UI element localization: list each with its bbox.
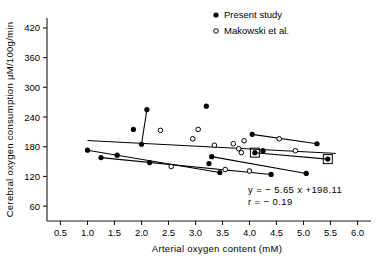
x-tick-label: 4.0 xyxy=(243,227,256,238)
data-point-makowski xyxy=(223,167,228,172)
x-axis-title: Arterial oxygen content (mM) xyxy=(152,243,282,254)
x-tick-label: 0.5 xyxy=(54,227,67,238)
scatter-plot: 601201802403003604200.51.01.52.02.53.03.… xyxy=(0,0,384,258)
data-point-makowski xyxy=(293,148,298,153)
data-point-present-study xyxy=(252,150,257,155)
data-point-makowski xyxy=(239,150,244,155)
y-tick-label: 180 xyxy=(24,141,40,152)
data-point-present-study xyxy=(325,157,330,162)
paired-connection-line xyxy=(142,110,147,145)
x-tick-label: 3.0 xyxy=(189,227,202,238)
x-tick-label: 3.5 xyxy=(216,227,229,238)
data-point-makowski xyxy=(247,169,252,174)
correlation-coefficient: r = − 0.19 xyxy=(248,196,293,207)
data-point-makowski xyxy=(158,128,163,133)
y-tick-label: 240 xyxy=(24,112,40,123)
x-tick-label: 6.0 xyxy=(351,227,364,238)
data-point-present-study xyxy=(131,127,136,132)
data-point-makowski xyxy=(277,137,282,142)
data-point-makowski xyxy=(191,137,196,142)
data-point-present-study xyxy=(85,148,90,153)
data-points-layer xyxy=(85,104,336,178)
data-point-present-study xyxy=(260,148,265,153)
y-tick-label: 420 xyxy=(24,22,40,33)
chart-container: 601201802403003604200.51.01.52.02.53.03.… xyxy=(0,0,384,258)
x-tick-label: 5.0 xyxy=(297,227,310,238)
legend-label-text: Present study xyxy=(224,9,282,20)
paired-connection-line xyxy=(255,153,328,159)
paired-connection-line xyxy=(88,150,220,172)
y-tick-label: 120 xyxy=(24,171,40,182)
x-tick-label: 5.5 xyxy=(324,227,337,238)
data-point-present-study xyxy=(98,155,103,160)
data-point-present-study xyxy=(204,104,209,109)
data-point-present-study xyxy=(139,142,144,147)
regression-equation: y = − 5.65 x +198.11 xyxy=(248,184,342,195)
x-tick-label: 2.0 xyxy=(135,227,148,238)
data-point-makowski xyxy=(212,143,217,148)
y-tick-label: 300 xyxy=(24,82,40,93)
data-point-present-study xyxy=(269,172,274,177)
data-point-present-study xyxy=(206,161,211,166)
data-point-present-study xyxy=(209,154,214,159)
data-point-makowski xyxy=(169,164,174,169)
legend-marker-filled-circle xyxy=(213,12,218,17)
data-point-makowski xyxy=(231,141,236,146)
data-point-makowski xyxy=(196,127,201,132)
paired-connection-line xyxy=(101,158,271,175)
x-tick-label: 4.5 xyxy=(270,227,283,238)
regression-line xyxy=(88,141,336,154)
x-tick-label: 2.5 xyxy=(162,227,175,238)
data-point-present-study xyxy=(304,171,309,176)
data-point-present-study xyxy=(115,153,120,158)
legend: Present studyMakowski et al. xyxy=(213,9,289,36)
x-tick-label: 1.5 xyxy=(108,227,121,238)
y-tick-label: 60 xyxy=(29,201,40,212)
annotations: y = − 5.65 x +198.11r = − 0.19 xyxy=(248,184,342,207)
y-tick-label: 360 xyxy=(24,52,40,63)
data-point-present-study xyxy=(314,141,319,146)
axes: 601201802403003604200.51.01.52.02.53.03.… xyxy=(4,18,371,254)
x-tick-label: 1.0 xyxy=(81,227,94,238)
data-point-makowski xyxy=(242,138,247,143)
data-point-present-study xyxy=(217,170,222,175)
legend-label-text: Makowski et al. xyxy=(224,25,289,36)
data-point-present-study xyxy=(250,132,255,137)
data-point-present-study xyxy=(144,107,149,112)
y-axis-title: Cerebral oxygen consumption µM/100g/min xyxy=(4,22,15,218)
paired-connection-line xyxy=(252,134,317,143)
data-point-present-study xyxy=(147,160,152,165)
legend-marker-open-circle xyxy=(214,29,219,34)
